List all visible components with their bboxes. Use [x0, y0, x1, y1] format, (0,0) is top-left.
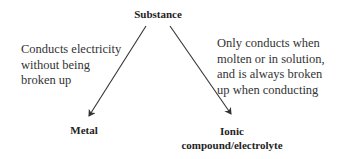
ionic-description-line: Only conducts when [217, 36, 325, 52]
ionic-description-line: molten or in solution, [217, 52, 325, 68]
ionic-node-line: Ionic [172, 124, 292, 138]
ionic-compound-node: Ionic compound/electrolyte [172, 124, 292, 152]
metal-description: Conducts electricity without being broke… [21, 42, 121, 89]
metal-description-line: broken up [21, 73, 121, 89]
ionic-description: Only conducts when molten or in solution… [217, 36, 325, 98]
root-node-substance: Substance [128, 8, 188, 20]
ionic-description-line: up when conducting [217, 83, 325, 99]
metal-description-line: without being [21, 58, 121, 74]
ionic-node-line: compound/electrolyte [172, 138, 292, 152]
ionic-description-line: and is always broken [217, 67, 325, 83]
metal-description-line: Conducts electricity [21, 42, 121, 58]
metal-node: Metal [59, 124, 109, 136]
